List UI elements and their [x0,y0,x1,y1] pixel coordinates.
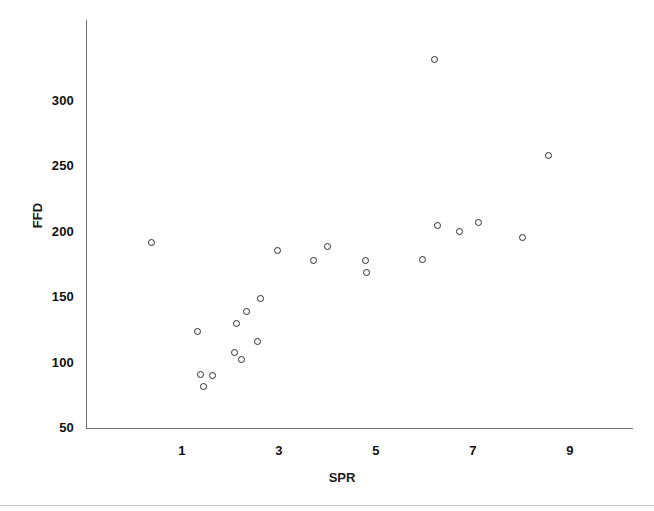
x-tick-label-1: 1 [167,443,197,458]
y-tick-label-250: 250 [28,158,74,173]
scatter-plot: 30025020015010050 13579 FFD SPR [0,0,654,511]
data-point [233,320,240,327]
data-point [545,152,552,159]
data-point [148,239,155,246]
data-point [456,228,463,235]
data-point [197,371,204,378]
data-point [209,372,216,379]
data-point [310,257,317,264]
data-point [434,222,441,229]
x-axis-line [86,428,633,429]
y-tick-label-300: 300 [28,93,74,108]
data-point [231,349,238,356]
data-point [254,338,261,345]
y-tick-label-150: 150 [28,289,74,304]
data-point [324,243,331,250]
data-point [419,256,426,263]
x-tick-label-9: 9 [555,443,585,458]
x-tick-label-3: 3 [264,443,294,458]
data-point [257,295,264,302]
data-point [362,257,369,264]
y-axis-title: FFD [30,186,45,246]
y-axis-line [86,20,87,429]
y-tick-label-50: 50 [28,420,74,435]
x-tick-label-5: 5 [361,443,391,458]
data-point [475,219,482,226]
x-tick-label-7: 7 [458,443,488,458]
x-axis-title: SPR [312,470,372,485]
bottom-divider [0,505,654,506]
data-point [431,56,438,63]
data-point [363,269,370,276]
data-point [519,234,526,241]
data-point [274,247,281,254]
data-point [238,356,245,363]
data-point [243,308,250,315]
y-tick-label-100: 100 [28,355,74,370]
data-point [200,383,207,390]
data-point [194,328,201,335]
